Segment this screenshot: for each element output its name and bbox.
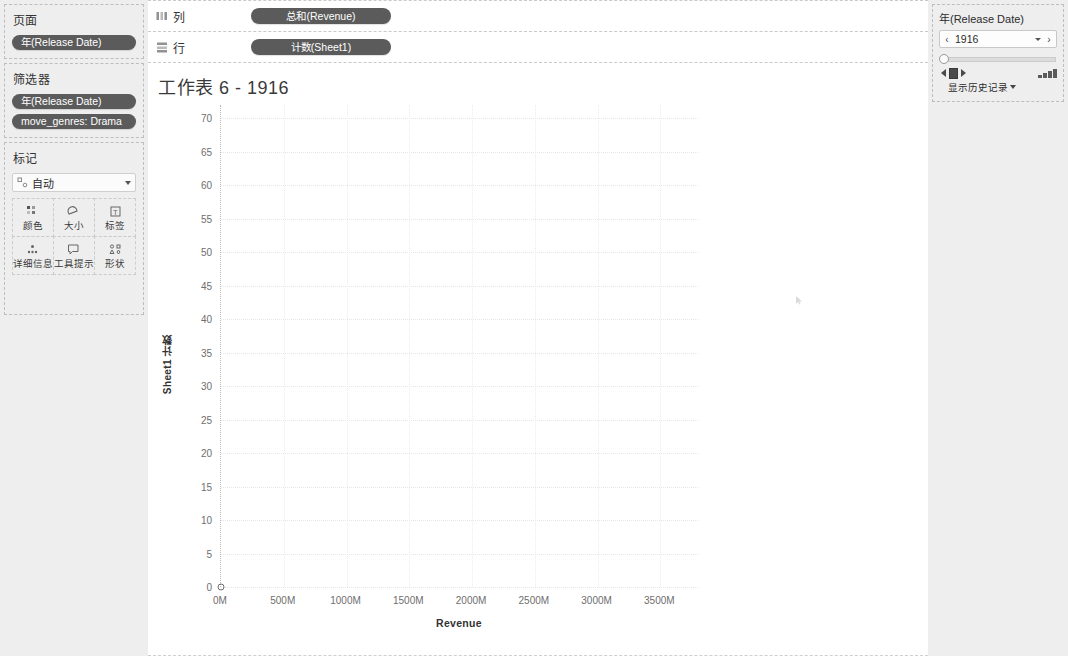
tableau-workspace: 页面 年(Release Date) 筛选器 年(Release Date) m… [0,0,1068,656]
pill-filter-move-genres-drama[interactable]: move_genres: Drama [12,114,136,129]
rows-shelf[interactable]: 行 计数(Sheet1) [148,32,928,63]
y-tick-label: 30 [201,381,212,392]
marks-button-size-label: 大小 [64,221,84,231]
next-page-icon[interactable]: › [1044,34,1054,45]
gridline-horizontal [221,353,698,354]
page-value-spinner[interactable]: ‹ 1916 › [939,30,1057,48]
pages-card: 页面 年(Release Date) [4,4,144,59]
page-value: 1916 [952,33,1035,45]
marks-button-color[interactable]: 颜色 [12,198,54,237]
y-tick-label: 65 [201,146,212,157]
gridline-horizontal [221,286,698,287]
transport-buttons [939,68,968,78]
left-sidebar: 页面 年(Release Date) 筛选器 年(Release Date) m… [0,0,148,656]
x-axis-title: Revenue [220,617,698,629]
rows-icon [156,42,168,53]
svg-text:T: T [112,208,118,216]
y-axis-ticks: 0510152025303540455055606570 [174,105,218,587]
pages-playback-title: 年(Release Date) [939,10,1057,26]
y-tick-label: 60 [201,180,212,191]
y-tick-label: 40 [201,314,212,325]
label-icon: T [95,204,135,219]
pill-filter-year-release-date[interactable]: 年(Release Date) [12,94,136,109]
right-panel: 年(Release Date) ‹ 1916 › [928,0,1068,656]
x-tick-label: 2000M [456,595,487,606]
gridline-horizontal [221,453,698,454]
plot-area[interactable] [220,105,698,587]
play-stop-icon[interactable] [949,68,958,78]
chevron-down-icon[interactable] [1035,38,1041,41]
page-title: 工作表 6 - 1916 [158,73,289,99]
gridline-vertical [598,105,599,587]
pages-card-title: 页面 [13,11,136,28]
y-tick-label: 35 [201,347,212,358]
show-history-dropdown[interactable]: 显示历史记录 [939,80,1057,94]
page-slider[interactable] [939,53,1057,63]
y-tick-label: 55 [201,213,212,224]
pill-year-release-date[interactable]: 年(Release Date) [12,35,136,50]
marks-button-tooltip-label: 工具提示 [54,259,94,269]
chart: Sheet1 计数 0510152025303540455055606570 0… [148,105,928,655]
gridline-horizontal [221,252,698,253]
marks-button-label[interactable]: T 标签 [94,198,136,237]
x-axis-ticks: 0M500M1000M1500M2000M2500M3000M3500M [220,595,698,609]
mark-type-dropdown[interactable]: 自动 [12,173,136,192]
gridline-horizontal [221,520,698,521]
marks-button-label-label: 标签 [105,221,125,231]
x-tick-label: 1000M [330,595,361,606]
step-forward-icon[interactable] [959,68,968,78]
rows-shelf-label: 行 [173,39,251,56]
color-icon [13,204,53,219]
chevron-down-icon [1010,85,1016,89]
automatic-icon [17,177,28,188]
y-tick-label: 25 [201,414,212,425]
x-tick-label: 500M [270,595,295,606]
mark-type-value: 自动 [32,175,125,191]
filters-card-title: 筛选器 [13,70,136,87]
marks-button-shape[interactable]: 形状 [94,236,136,275]
step-back-icon[interactable] [939,68,948,78]
gridline-horizontal [221,487,698,488]
y-tick-label: 0 [206,582,212,593]
playback-controls [939,68,1057,78]
prev-page-icon[interactable]: ‹ [942,34,952,45]
gridline-vertical [535,105,536,587]
pill-count-sheet1[interactable]: 计数(Sheet1) [251,39,391,55]
show-history-label: 显示历史记录 [948,80,1008,94]
data-point[interactable] [218,584,225,591]
columns-shelf[interactable]: 列 总和(Revenue) [148,0,928,32]
gridline-horizontal [221,420,698,421]
pages-playback-card: 年(Release Date) ‹ 1916 › [932,4,1064,102]
filters-card: 筛选器 年(Release Date) move_genres: Drama [4,63,144,138]
y-tick-label: 70 [201,113,212,124]
pill-sum-revenue[interactable]: 总和(Revenue) [251,8,391,24]
worksheet-area: 工作表 6 - 1916 Sheet1 计数 05101520253035404… [148,63,928,656]
gridline-vertical [472,105,473,587]
y-tick-label: 5 [206,548,212,559]
marks-button-size[interactable]: 大小 [53,198,95,237]
gridline-horizontal [221,587,698,588]
marks-button-color-label: 颜色 [23,221,43,231]
page-slider-knob[interactable] [939,54,949,64]
marks-card-title: 标记 [13,149,136,166]
gridline-horizontal [221,185,698,186]
y-tick-label: 10 [201,515,212,526]
tooltip-icon [54,242,94,257]
marks-button-detail[interactable]: 详细信息 [12,236,54,275]
y-tick-label: 20 [201,448,212,459]
playback-speed-icon[interactable] [1038,68,1057,78]
x-tick-label: 3500M [644,595,675,606]
shape-icon [95,242,135,257]
chevron-down-icon [125,181,131,185]
cursor-icon [796,295,803,304]
marks-button-tooltip[interactable]: 工具提示 [53,236,95,275]
y-tick-label: 15 [201,481,212,492]
detail-icon [13,242,53,257]
marks-button-detail-label: 详细信息 [13,259,53,269]
page-slider-track [946,57,1056,62]
gridline-vertical [347,105,348,587]
gridline-vertical [660,105,661,587]
size-icon [54,204,94,219]
gridline-vertical [284,105,285,587]
y-tick-label: 50 [201,247,212,258]
